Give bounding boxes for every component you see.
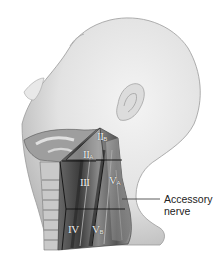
accessory-nerve-callout: Accessory nerve: [164, 193, 212, 217]
level-label-IIA: IIA: [83, 149, 93, 160]
callout-line-2: nerve: [164, 205, 212, 217]
level-label-III: III: [80, 177, 90, 188]
level-label-VA: VA: [109, 175, 120, 186]
level-label-IV: IV: [68, 224, 79, 235]
level-label-IIB: IIB: [97, 131, 107, 142]
level-label-VB: VB: [92, 224, 103, 235]
neck-levels-illustration: IIB IIA III VA IV VB Accessory nerve: [0, 0, 224, 255]
callout-line-1: Accessory: [164, 193, 212, 205]
